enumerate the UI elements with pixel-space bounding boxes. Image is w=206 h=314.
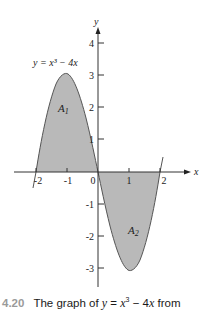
figure-caption: 4.20The graph of y = x3 − 4x from <box>2 296 181 311</box>
caption-text: from <box>154 297 180 309</box>
y-tick-label: -3 <box>86 263 94 274</box>
y-tick-label: 4 <box>89 38 94 49</box>
caption-text: = <box>107 297 120 309</box>
y-tick-label: 2 <box>89 102 94 113</box>
x-axis-label: x <box>193 166 199 177</box>
y-tick-label: 3 <box>89 70 94 81</box>
y-axis-arrow-icon <box>96 27 101 34</box>
caption-text: − 4 <box>129 297 149 309</box>
x-tick-label: 0 <box>91 175 96 186</box>
x-tick-label: 1 <box>127 175 132 186</box>
curve-label: y = x³ − 4x <box>32 57 78 68</box>
y-axis-label: y <box>93 16 99 27</box>
x-tick-label: -2 <box>34 175 42 186</box>
x-axis-arrow-icon <box>184 170 191 175</box>
x-tick-label: -1 <box>64 175 72 186</box>
y-tick-label: -1 <box>86 199 94 210</box>
x-tick-label: 2 <box>162 175 167 186</box>
y-ticks <box>98 43 104 268</box>
function-graph: -2 -1 0 1 2 4 3 2 1 -1 -2 -3 x y y = x³ … <box>0 0 206 290</box>
y-tick-label: 1 <box>89 134 94 145</box>
y-tick-label: -2 <box>86 231 94 242</box>
figure-number: 4.20 <box>2 297 24 309</box>
caption-text: The graph of <box>33 297 101 309</box>
